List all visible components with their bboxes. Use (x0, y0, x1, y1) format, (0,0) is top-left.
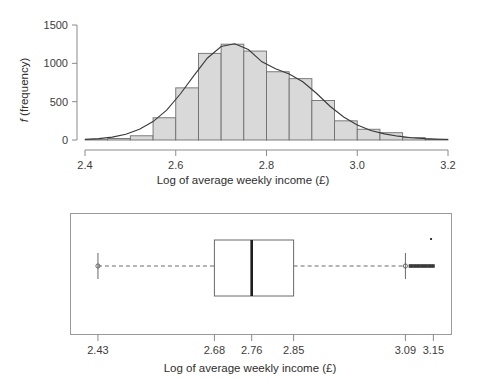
histogram-y-axis-title: f (frequency) (18, 58, 30, 123)
boxplot-x-tick-label: 2.68 (204, 344, 225, 356)
histogram-y-tick-label: 1500 (44, 19, 68, 31)
histogram-y-tick-label: 1000 (44, 57, 68, 69)
boxplot-x-tick-label: 2.85 (283, 344, 304, 356)
boxplot-x-tick-label: 2.76 (241, 344, 262, 356)
boxplot-x-axis-title: Log of average weekly income (£) (164, 362, 337, 374)
histogram-x-axis-title: Log of average weekly income (£) (157, 174, 330, 186)
statistics-figure: 050010001500 2.42.62.83.03.2 Log of aver… (0, 0, 486, 380)
histogram-bar (108, 138, 131, 140)
histogram-bar (130, 136, 153, 140)
histogram-x-tick-label: 3.0 (350, 159, 365, 171)
boxplot-panel: 2.432.682.762.853.093.15 Log of average … (71, 214, 452, 375)
boxplot-x-axis: 2.432.682.762.853.093.15 (87, 334, 444, 356)
boxplot-x-tick-label: 3.09 (395, 344, 416, 356)
histogram-panel: 050010001500 2.42.62.83.03.2 Log of aver… (18, 19, 456, 186)
histogram-bar (198, 53, 221, 140)
histogram-y-tick-label: 500 (50, 96, 68, 108)
histogram-bar (267, 72, 290, 140)
histogram-x-tick-label: 2.4 (77, 159, 92, 171)
histogram-bar (335, 121, 358, 140)
histogram-y-axis: 050010001500 (44, 19, 77, 146)
histogram-bar (289, 79, 312, 140)
boxplot-x-tick-label: 3.15 (423, 344, 444, 356)
histogram-bar (357, 129, 380, 140)
histogram-x-tick-label: 2.8 (259, 159, 274, 171)
boxplot-box (214, 240, 293, 296)
boxplot-outlier-high (432, 264, 435, 268)
histogram-bar (312, 101, 335, 140)
histogram-bar (153, 118, 176, 140)
figure-svg: 050010001500 2.42.62.83.03.2 Log of aver… (0, 0, 486, 380)
y-axis-title-rest: (frequency) (18, 58, 30, 120)
histogram-x-tick-label: 2.6 (168, 159, 183, 171)
histogram-bars (85, 44, 448, 140)
histogram-y-tick-label: 0 (62, 134, 68, 146)
histogram-bar (221, 44, 244, 140)
histogram-bar (244, 51, 267, 140)
boxplot-extreme-outlier (430, 238, 432, 240)
boxplot-elements (96, 238, 435, 296)
histogram-x-axis: 2.42.62.83.03.2 (77, 150, 455, 171)
boxplot-x-tick-label: 2.43 (87, 344, 108, 356)
histogram-x-tick-label: 3.2 (440, 159, 455, 171)
